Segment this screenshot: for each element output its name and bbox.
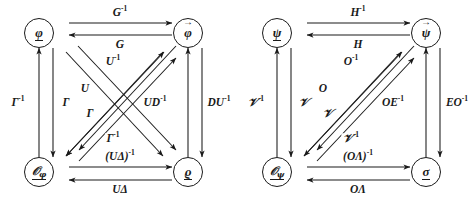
edge-label-diagonal-upper: U-1: [104, 56, 122, 68]
node-glyph: φ: [35, 26, 43, 41]
node-psi-underline: ψ: [262, 18, 292, 48]
commutative-diagram-figure: φ φ 𝒪φ ϱ G-1 G Γ-1 Γ UD-1 DU-1 U: [0, 0, 476, 202]
edge-label-bottom-upper: (UΔ)-1: [104, 151, 136, 163]
edge-label-bottom-lower: OΛ: [349, 184, 368, 196]
edge-label-diagonal-lower: Γ-1: [105, 133, 121, 145]
edge-label-left-outer: 𝒱-1: [246, 97, 265, 109]
edge-label-top-upper: H-1: [349, 7, 367, 19]
node-glyph: ψ: [273, 26, 282, 41]
node-glyph: ϱ: [184, 165, 191, 180]
node-glyph: ψ: [422, 26, 431, 40]
node-glyph: φ: [184, 26, 192, 40]
edge-label-right-inner: OE-1: [380, 97, 405, 109]
edge-label-left-inner: 𝒱: [298, 97, 311, 109]
node-script-o-psi: 𝒪ψ: [262, 157, 292, 187]
node-subscript: ψ: [277, 170, 285, 178]
node-subscript: φ: [39, 170, 46, 178]
node-phi-underline: φ: [24, 18, 54, 48]
edge-label-top-lower: G: [114, 39, 125, 51]
node-psi-vector: ψ: [411, 18, 441, 48]
node-glyph: 𝒪φ: [32, 165, 46, 180]
edge-label-top-lower: H: [352, 39, 364, 51]
node-glyph: 𝒪ψ: [270, 165, 285, 180]
edge-label-left-inner: Γ: [61, 97, 71, 109]
node-glyph: σ: [422, 165, 429, 180]
edge-label-right-outer: EO-1: [444, 97, 469, 109]
edge-label-diagonal-mid-upper: U: [79, 83, 90, 95]
diagram-left: φ φ 𝒪φ ϱ G-1 G Γ-1 Γ UD-1 DU-1 U: [0, 0, 238, 202]
node-script-o-phi: 𝒪φ: [24, 157, 54, 187]
edge-label-diagonal-mid-lower: Γ: [85, 108, 95, 120]
edge-label-diagonal-mid-lower: 𝒱: [322, 108, 335, 120]
edge-label-diagonal-lower: 𝒱-1: [341, 133, 360, 145]
edge-label-top-upper: G-1: [111, 7, 129, 19]
edge-label-right-outer: DU-1: [206, 97, 232, 109]
edge-label-right-inner: UD-1: [142, 97, 168, 109]
edge-label-left-outer: Γ-1: [10, 97, 26, 109]
node-phi-vector: φ: [173, 18, 203, 48]
edge-label-diagonal-upper: O-1: [342, 56, 360, 68]
edge-label-bottom-lower: UΔ: [111, 184, 130, 196]
node-sigma-underline: σ: [411, 157, 441, 187]
edge-label-diagonal-mid-upper: O: [317, 83, 328, 95]
node-varrho-underline: ϱ: [173, 157, 203, 187]
edge-label-bottom-upper: (OΛ)-1: [342, 151, 375, 163]
diagram-right: ψ ψ 𝒪ψ σ H-1 H 𝒱-1 𝒱 OE-1 EO-1: [238, 0, 476, 202]
